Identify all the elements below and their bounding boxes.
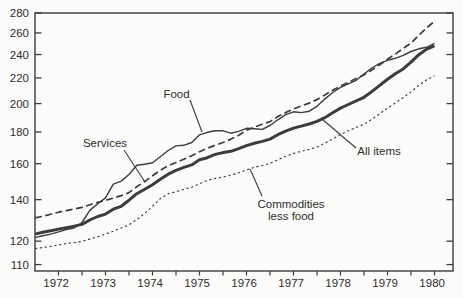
y-tick-label: 140 [10,194,29,206]
x-tick-label-1973: 1973 [90,277,116,289]
y-tick-label: 280 [10,7,29,19]
series-services-line [35,21,435,218]
annotation-label-all-items: All items [357,145,401,157]
x-tick-label-1979: 1979 [372,277,398,289]
annotation-label-commodities-less-food: less food [268,210,314,222]
x-tick-label-1977: 1977 [278,277,304,289]
y-tick-label: 180 [10,126,29,138]
y-tick-label: 260 [10,27,29,39]
annotation-label-services: Services [83,137,127,149]
x-tick-label-1975: 1975 [184,277,210,289]
y-tick-label: 120 [10,235,29,247]
cpi-ratio-chart: 2802602402202001801601401201101972197319… [0,0,463,298]
annotation-leader-all-items [322,119,356,148]
y-tick-label: 220 [10,72,29,84]
chart-canvas: 2802602402202001801601401201101972197319… [0,0,463,298]
annotation-label-commodities-less-food: Commodities [257,198,324,210]
annotation-leader-commodities-less-food [250,169,262,196]
series-commodities-less-food-line [35,76,435,249]
x-tick-label-1976: 1976 [231,277,257,289]
y-tick-label: 110 [11,259,29,271]
y-tick-label: 160 [10,158,29,170]
x-tick-label-1978: 1978 [325,277,351,289]
annotation-leader-food [190,100,202,132]
y-tick-label: 200 [10,98,29,110]
x-tick-label-1980: 1980 [419,277,445,289]
x-tick-label-1974: 1974 [137,277,163,289]
y-tick-label: 240 [10,49,29,61]
annotation-leader-services [124,150,145,182]
x-tick-label-1972: 1972 [43,277,69,289]
annotation-label-food: Food [163,88,189,100]
